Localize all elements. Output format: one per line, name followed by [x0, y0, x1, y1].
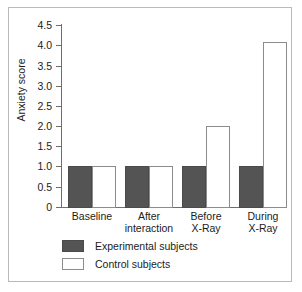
bar-control-after-interaction	[149, 166, 173, 208]
y-tick-2.5	[56, 106, 61, 107]
legend-item-experimental: Experimental subjects	[62, 237, 198, 255]
legend-label-experimental: Experimental subjects	[95, 240, 198, 252]
y-tick-0.5	[56, 187, 61, 188]
bar-experimental-during-xray	[239, 166, 263, 208]
bar-experimental-before-xray	[182, 166, 206, 208]
y-tick-1.5	[56, 146, 61, 147]
x-category-label-during-xray: During X-Ray	[228, 211, 298, 234]
chart-figure: Anxiety score 4.5 4.0 3.5 3.0 2.5 2.0 1.…	[0, 0, 302, 292]
bar-control-before-xray	[206, 126, 230, 208]
legend-swatch-control	[62, 258, 84, 270]
y-tick-label-0: 0	[12, 202, 52, 213]
bar-control-baseline	[92, 166, 116, 208]
y-tick-label-3.5: 3.5	[12, 61, 52, 72]
legend-swatch-experimental	[62, 240, 84, 252]
chart-legend: Experimental subjects Control subjects	[62, 237, 198, 273]
y-tick-4.5	[56, 25, 61, 26]
bar-control-during-xray	[263, 42, 287, 208]
y-tick-label-4.0: 4.0	[12, 40, 52, 51]
y-tick-3.0	[56, 86, 61, 87]
legend-label-control: Control subjects	[95, 258, 170, 270]
y-axis-line	[61, 24, 62, 208]
y-tick-label-0.5: 0.5	[12, 182, 52, 193]
y-tick-label-2.5: 2.5	[12, 101, 52, 112]
y-tick-4.0	[56, 45, 61, 46]
y-tick-3.5	[56, 66, 61, 67]
bar-experimental-after-interaction	[125, 166, 149, 208]
y-tick-label-1.5: 1.5	[12, 141, 52, 152]
y-tick-1.0	[56, 166, 61, 167]
plot-area: Anxiety score 4.5 4.0 3.5 3.0 2.5 2.0 1.…	[0, 0, 302, 292]
y-tick-label-2.0: 2.0	[12, 121, 52, 132]
y-tick-0	[56, 207, 61, 208]
y-tick-label-4.5: 4.5	[12, 20, 52, 31]
bar-experimental-baseline	[68, 166, 92, 208]
y-tick-label-1.0: 1.0	[12, 161, 52, 172]
y-tick-2.0	[56, 126, 61, 127]
legend-item-control: Control subjects	[62, 255, 198, 273]
y-tick-label-3.0: 3.0	[12, 81, 52, 92]
